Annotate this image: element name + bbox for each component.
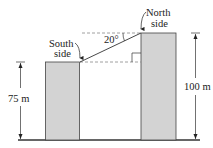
- right-height-label: 100 m: [184, 81, 211, 92]
- left-dimension-arrow-down: [19, 134, 23, 139]
- north-side-label-line1: North: [146, 7, 171, 18]
- building-diagram: 20° South side North side 75 m 100 m: [0, 0, 213, 148]
- right-dimension-arrow-up: [194, 34, 198, 39]
- right-dimension-arrow-down: [194, 134, 198, 139]
- south-side-arrow: [75, 43, 80, 58]
- left-height-label: 75 m: [8, 93, 29, 104]
- north-building: [141, 33, 176, 140]
- north-side-label-line2: side: [151, 18, 168, 29]
- south-side-label-line2: side: [54, 48, 71, 59]
- angle-arc: [123, 33, 125, 41]
- angle-label: 20°: [104, 34, 119, 45]
- right-angle-marker: [132, 53, 141, 62]
- left-dimension-arrow-up: [19, 63, 23, 68]
- south-building: [46, 62, 80, 140]
